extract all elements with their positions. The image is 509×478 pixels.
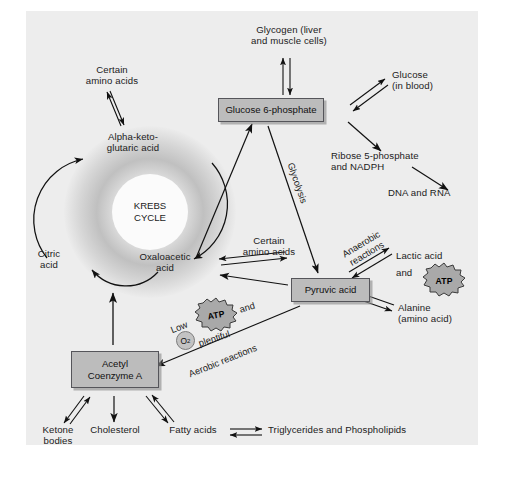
label-triglycerides-phospholipids: Triglycerides and Phospholipids xyxy=(268,424,468,435)
arrow-g6p-ribose xyxy=(348,122,381,151)
label-alanine: Alanine (amino acid) xyxy=(398,302,498,325)
krebs-cycle-center-label: KREBS CYCLE xyxy=(118,200,182,223)
label-ribose-5-phosphate-nadph: Ribose 5-phosphate and NADPH xyxy=(331,150,455,173)
arrow-glycogen-g6p xyxy=(283,58,290,95)
arrow-glucose-g6p xyxy=(350,79,388,111)
box-pyruvic-acid[interactable]: Pyruvic acid xyxy=(291,278,370,302)
atp-badge-lactic: ATP xyxy=(429,271,459,290)
label-oxaloacetic-acid: Oxaloacetic acid xyxy=(125,251,205,274)
o2-subscript: 2 xyxy=(187,338,190,344)
label-lactic-acid-and: and xyxy=(396,267,424,278)
box-acetyl-coenzyme-a[interactable]: Acetyl Coenzyme A xyxy=(71,351,159,388)
arrow-fatty-triglycerides xyxy=(230,429,262,435)
label-glucose-in-blood: Glucose (in blood) xyxy=(392,69,482,92)
label-fatty-acids: Fatty acids xyxy=(159,424,227,435)
arrow-acetylcoa-fatty xyxy=(146,395,174,423)
arrow-amino-acids-alphaketo xyxy=(107,91,124,126)
label-citric-acid: Citric acid xyxy=(22,248,76,271)
label-alpha-ketoglutaric-acid: Alpha-keto- glutaric acid xyxy=(88,131,178,154)
label-cholesterol: Cholesterol xyxy=(81,424,149,435)
label-ketone-bodies: Ketone bodies xyxy=(28,424,88,447)
label-lactic-acid: Lactic acid xyxy=(396,250,476,261)
label-glycogen: Glycogen (liver and muscle cells) xyxy=(228,24,350,47)
label-dna-and-rna: DNA and RNA xyxy=(388,187,478,198)
metabolic-pathway-figure: Glucose 6-phosphate Pyruvic acid Acetyl … xyxy=(0,0,509,478)
o2-badge: O2 xyxy=(176,331,195,350)
label-certain-amino-acids-mid: Certain amino acids xyxy=(226,235,312,258)
arrow-pyruvic-oxaloacetic xyxy=(220,275,288,285)
box-glucose-6-phosphate[interactable]: Glucose 6-phosphate xyxy=(218,98,324,122)
label-certain-amino-acids-top: Certain amino acids xyxy=(69,64,155,87)
